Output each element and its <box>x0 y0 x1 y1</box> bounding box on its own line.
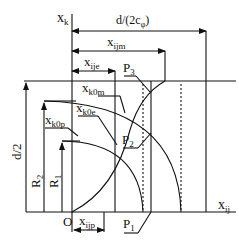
horizontal-axis-label: xij <box>218 197 230 214</box>
xije-label: xije <box>84 54 100 71</box>
half-d-label: d/2 <box>9 143 24 160</box>
top-span-label: d/(2cφ) <box>116 13 149 29</box>
leader-xk0m <box>120 96 125 113</box>
arc-r1 <box>62 141 143 212</box>
origin-label: O <box>63 214 72 229</box>
diagram-canvas: xk xij O d/(2cφ) xijm xije xijp d/2 R2 R… <box>0 0 239 243</box>
vertical-axis-label: xk <box>57 10 69 27</box>
leader-xk0e <box>98 116 117 145</box>
leader-p2 <box>138 133 151 148</box>
p2-label: P2 <box>122 132 134 149</box>
diagram-svg: xk xij O d/(2cφ) xijm xije xijp d/2 R2 R… <box>0 0 239 243</box>
xk0m-label: xk0m <box>82 80 105 97</box>
xijp-label: xijp <box>79 213 96 230</box>
p1-label: P1 <box>123 216 135 233</box>
xijm-label: xijm <box>107 34 126 51</box>
r2-label: R2 <box>28 175 45 188</box>
xk0p-label: xk0p <box>45 112 66 129</box>
leader-xk0p <box>68 128 78 136</box>
xk0e-label: xk0e <box>76 100 96 117</box>
arc-r2 <box>44 101 181 212</box>
leader-p1 <box>138 212 151 233</box>
p3-label: P3 <box>123 60 135 77</box>
r1-label: R1 <box>46 175 63 188</box>
